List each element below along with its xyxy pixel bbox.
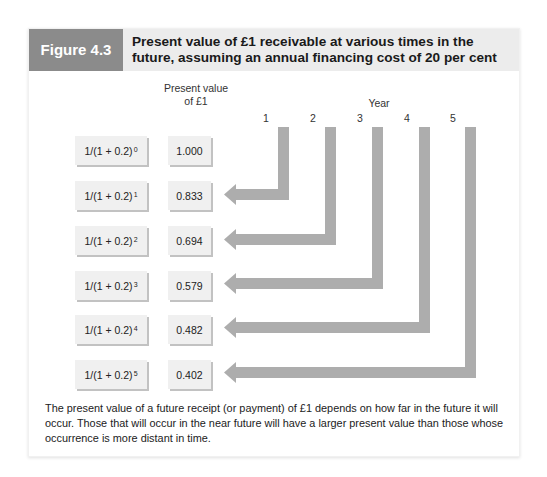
figure-caption: The present value of a future receipt (o… [45,401,515,446]
value-box-year-1: 0.833 [168,181,211,210]
year-label-1: 1 [256,112,276,124]
formula-box-year-1: 1/(1 + 0.2)1 [75,181,147,210]
formula-base: 1/(1 + 0.2) [84,190,132,202]
value-box-year-5: 0.402 [168,360,211,389]
formula-box-year-2: 1/(1 + 0.2)2 [75,226,147,255]
year-heading: Year [359,97,399,110]
formula-exponent: 1 [134,191,138,198]
year-label-2: 2 [303,112,323,124]
figure-label: Figure 4.3 [29,29,123,71]
present-value-heading-line2: of £1 [156,95,236,108]
figure-panel: Figure 4.3 Present value of £1 receivabl… [28,28,520,457]
value-box-year-2: 0.694 [168,226,211,255]
year-label-3: 3 [350,112,370,124]
value-box-year-0: 1.000 [168,136,211,165]
formula-exponent: 4 [134,325,138,332]
formula-exponent: 3 [134,281,138,288]
formula-exponent: 5 [134,370,138,377]
formula-base: 1/(1 + 0.2) [84,280,132,292]
year-label-5: 5 [443,112,463,124]
formula-base: 1/(1 + 0.2) [84,145,132,157]
formula-base: 1/(1 + 0.2) [84,235,132,247]
year-label-4: 4 [397,112,417,124]
present-value-heading-line1: Present value [156,82,236,95]
formula-base: 1/(1 + 0.2) [84,369,132,381]
present-value-heading: Present value of £1 [156,82,236,108]
formula-box-year-3: 1/(1 + 0.2)3 [75,271,147,300]
formula-box-year-5: 1/(1 + 0.2)5 [75,360,147,389]
formula-box-year-4: 1/(1 + 0.2)4 [75,315,147,344]
formula-exponent: 2 [134,236,138,243]
value-box-year-4: 0.482 [168,315,211,344]
figure-title: Present value of £1 receivable at variou… [132,34,512,66]
value-box-year-3: 0.579 [168,271,211,300]
figure-header: Figure 4.3 Present value of £1 receivabl… [29,29,519,71]
formula-exponent: 0 [134,146,138,153]
formula-box-year-0: 1/(1 + 0.2)0 [75,136,147,165]
formula-base: 1/(1 + 0.2) [84,324,132,336]
